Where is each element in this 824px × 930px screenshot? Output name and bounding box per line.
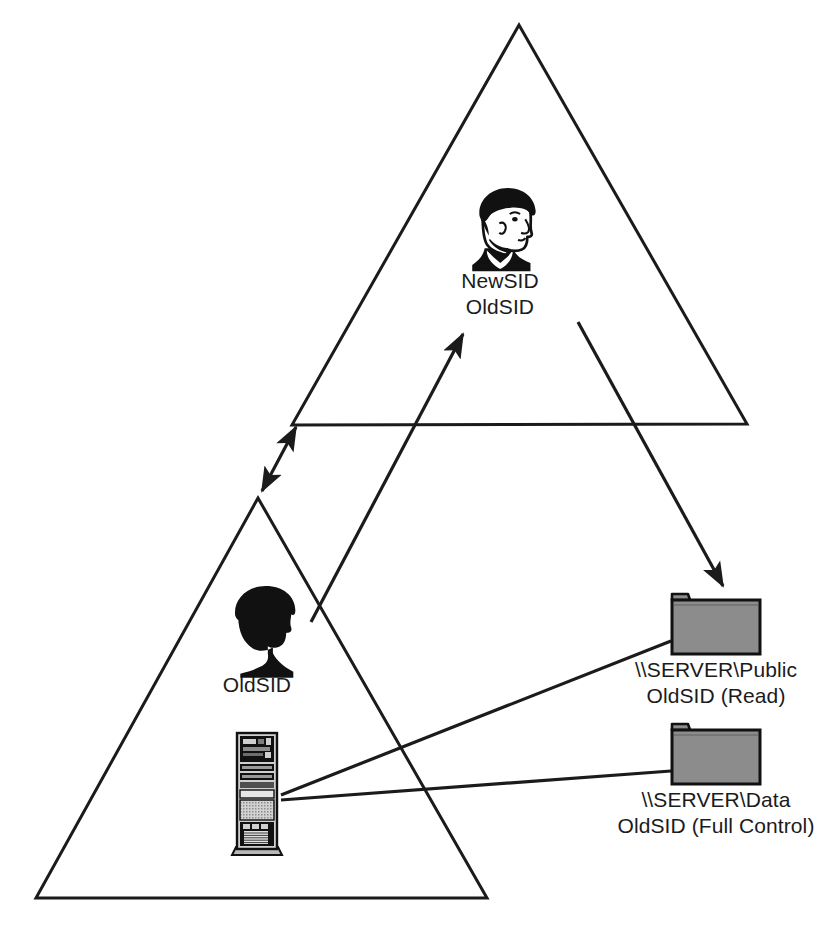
label-share-public-path: \\SERVER\Public	[635, 657, 797, 683]
label-old-user: OldSID	[223, 672, 291, 698]
folder-icon-data	[672, 724, 760, 784]
label-share-data: \\SERVER\Data OldSID (Full Control)	[618, 787, 815, 839]
server-to-public-connector	[281, 641, 671, 795]
domain-trust-connector	[262, 427, 296, 491]
person-head-outline-icon	[472, 188, 535, 271]
label-share-data-path: \\SERVER\Data	[618, 787, 815, 813]
person-head-silhouette-icon	[235, 586, 295, 678]
label-new-user-line-2: OldSID	[461, 294, 539, 320]
sid-migration-connector	[311, 334, 463, 622]
folder-icon-public	[672, 594, 760, 654]
label-old-user-line-1: OldSID	[223, 672, 291, 698]
diagram-canvas: NewSID OldSID OldSID \\SERVER\Public Old…	[0, 0, 824, 930]
access-public-connector	[578, 322, 723, 586]
label-share-public-permission: OldSID (Read)	[635, 683, 797, 709]
label-share-public: \\SERVER\Public OldSID (Read)	[635, 657, 797, 709]
label-share-data-permission: OldSID (Full Control)	[618, 813, 815, 839]
label-new-user-line-1: NewSID	[461, 268, 539, 294]
label-new-user: NewSID OldSID	[461, 268, 539, 320]
server-to-data-connector	[281, 771, 671, 800]
server-tower-icon	[232, 733, 282, 855]
